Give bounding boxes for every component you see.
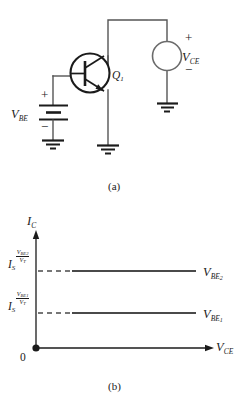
plot-x-axis-label: VCE	[216, 338, 233, 354]
y-tick-upper-expression: IS VBE2 VT	[8, 256, 29, 270]
vbe-source-label: VBE	[11, 105, 28, 121]
plot-origin-dot	[32, 344, 39, 351]
curve-label-vbe2-index: 2	[220, 275, 223, 281]
curve-label-vbe1-index: 1	[220, 317, 223, 323]
figure-linework	[0, 0, 247, 406]
vbe-plus-sign: +	[41, 88, 48, 101]
y-tick-upper-base: IS	[8, 258, 15, 270]
y-tick-upper-fraction: VBE2 VT	[16, 249, 30, 263]
y-tick-lower-fraction: VBE1 VT	[16, 291, 30, 305]
vbe-minus-sign: −	[41, 120, 48, 133]
curve-label-vbe1-letter: V	[203, 307, 211, 321]
y-tick-lower-numerator: VBE1	[16, 291, 30, 298]
panel-a-circuit	[53, 20, 167, 145]
vbe-label-sub: BE	[19, 114, 28, 123]
transistor-label-sub: 1	[120, 75, 124, 83]
voltage-source-vce-circle	[153, 42, 182, 71]
plot-x-axis-arrowhead	[205, 345, 214, 351]
ground-symbol-vce	[157, 104, 178, 112]
caption-panel-b: (b)	[108, 381, 121, 392]
y-tick-lower-expression: IS VBE1 VT	[8, 298, 29, 312]
y-axis-label-sub: C	[31, 221, 36, 230]
x-axis-label-sub: CE	[224, 347, 234, 356]
curve-label-vbe1-sub: BE	[211, 314, 220, 323]
curve-label-vbe1: VBE1	[203, 305, 223, 321]
y-tick-lower-denominator: VT	[19, 299, 27, 306]
vce-minus-sign: −	[185, 63, 192, 76]
x-axis-label-letter: V	[216, 340, 224, 354]
curve-label-vbe2-letter: V	[203, 265, 211, 279]
vce-plus-sign: +	[185, 31, 192, 44]
y-tick-upper-denominator: VT	[19, 257, 27, 264]
transistor-label: Q1	[112, 66, 124, 82]
y-tick-lower-base: IS	[8, 300, 15, 312]
y-tick-upper-numerator: VBE2	[16, 249, 30, 256]
plot-y-axis-arrowhead	[33, 230, 39, 239]
caption-panel-a: (a)	[108, 181, 120, 192]
plot-y-axis-label: IC	[27, 212, 36, 228]
vbe-label-letter: V	[11, 107, 19, 121]
curve-label-vbe2-sub: BE	[211, 272, 220, 281]
ground-symbol-emitter	[97, 146, 119, 154]
curve-label-vbe2: VBE2	[203, 263, 223, 279]
figure-container: Q1 VBE + − VCE + − (a) IC VCE 0 IS VBE2 …	[0, 0, 247, 406]
ground-symbol-vbe	[42, 141, 64, 149]
plot-origin-label: 0	[20, 352, 26, 364]
